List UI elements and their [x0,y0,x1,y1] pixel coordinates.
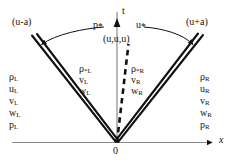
left-state-subscript: L [14,75,18,82]
star-right-state-group: ρ*R vR wR [131,64,144,96]
right-state-item: ρR [200,72,210,82]
x-axis-label: x [219,135,223,146]
u-star-label: u* [136,20,146,31]
t-axis-label: t [122,6,125,17]
left-state-subscript: L [14,123,18,130]
right-state-item: uR [200,84,210,94]
left-state-item: ρL [9,72,18,82]
right-wave-u-plus-a [115,34,203,143]
star-right-w: wR [131,86,143,96]
star-right-rho: ρ*R [131,64,144,74]
origin-label: 0 [113,146,118,157]
right-state-item: pR [200,120,210,130]
left-state-subscript: L [16,111,20,118]
left-wave-u-minus-a [32,34,119,142]
left-state-subscript: L [14,87,18,94]
right-state-subscript: R [205,123,210,130]
star-left-v: vL [79,75,88,85]
star-left-rho: ρ*L [79,64,92,74]
left-state-item: wL [9,108,20,118]
left-state-subscript: L [14,99,18,106]
right-state-item: vR [200,96,210,106]
p-star-subscript: * [98,22,103,32]
contact-discontinuity-label: (u,u,u) [103,34,130,45]
star-left-w: wL [79,86,90,96]
right-curved-arrow [144,27,193,45]
star-left-w-subscript: L [86,89,90,96]
star-left-rho-subscript: *L [84,67,92,74]
star-left-state-group: ρ*L vL wL [79,64,92,96]
right-state-group: ρRuRvRwRpR [200,72,212,130]
riemann-wave-structure-figure: t x 0 p* u* (u-a) (u+a) (u,u,u) ρ*L vL w… [0,0,237,167]
right-state-subscript: R [207,111,212,118]
u-star-subscript: * [141,22,146,32]
left-state-item: uL [9,84,18,94]
right-state-item: wR [200,108,212,118]
left-state-item: vL [9,96,18,106]
left-state-group: ρLuLvLwLpL [9,72,20,130]
star-right-rho-subscript: *R [136,67,144,74]
p-star-label: p* [93,20,103,31]
right-state-subscript: R [205,75,210,82]
star-right-v: vR [131,75,141,85]
star-right-w-subscript: R [138,89,143,96]
t-axis [114,12,121,143]
right-state-subscript: R [205,99,210,106]
right-state-subscript: R [205,87,210,94]
right-wave-label: (u+a) [186,17,208,28]
left-state-item: pL [9,120,18,130]
t-axis-arrowhead [114,18,121,27]
left-wave-label: (u-a) [12,17,31,28]
